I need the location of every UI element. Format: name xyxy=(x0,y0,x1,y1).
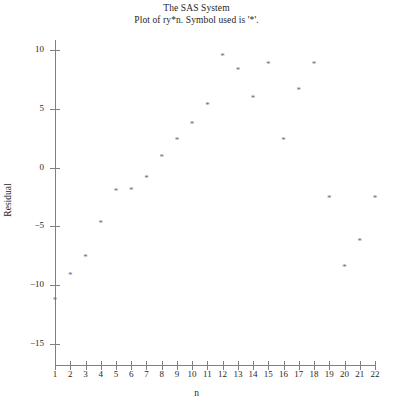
data-point: * xyxy=(355,237,364,246)
data-point: * xyxy=(233,66,242,75)
y-tick-label: −10 xyxy=(14,279,44,289)
x-tick-label: 22 xyxy=(365,369,385,379)
scatter-plot-figure: The SAS System Plot of ry*n. Symbol used… xyxy=(0,0,393,418)
plot-area: 1050−5−10−15 123456789101112131415161718… xyxy=(0,0,393,418)
y-tick-mark xyxy=(50,109,60,110)
data-point: * xyxy=(127,186,136,195)
data-point: * xyxy=(294,86,303,95)
data-point: * xyxy=(112,187,121,196)
y-tick-mark xyxy=(50,344,60,345)
data-point: * xyxy=(157,153,166,162)
x-axis-line xyxy=(55,365,375,366)
data-point: * xyxy=(279,136,288,145)
y-tick-label: 10 xyxy=(14,44,44,54)
y-tick-label: −15 xyxy=(14,338,44,348)
data-point: * xyxy=(371,194,380,203)
y-tick-mark xyxy=(50,285,60,286)
data-point: * xyxy=(325,194,334,203)
y-tick-mark xyxy=(50,168,60,169)
data-point: * xyxy=(66,271,75,280)
y-tick-label: 5 xyxy=(14,103,44,113)
data-point: * xyxy=(264,60,273,69)
y-axis-line xyxy=(55,40,56,366)
data-point: * xyxy=(81,253,90,262)
data-point: * xyxy=(218,52,227,61)
x-axis-title: n xyxy=(0,388,393,398)
y-tick-mark xyxy=(50,226,60,227)
y-axis-title: Residual xyxy=(3,170,13,230)
data-point: * xyxy=(96,219,105,228)
data-point: * xyxy=(340,263,349,272)
data-point: * xyxy=(203,101,212,110)
data-point: * xyxy=(310,60,319,69)
y-tick-label: −5 xyxy=(14,220,44,230)
data-point: * xyxy=(188,120,197,129)
data-point: * xyxy=(51,296,60,305)
data-point: * xyxy=(249,94,258,103)
y-tick-label: 0 xyxy=(14,162,44,172)
data-point: * xyxy=(172,136,181,145)
data-point: * xyxy=(142,174,151,183)
y-tick-mark xyxy=(50,50,60,51)
